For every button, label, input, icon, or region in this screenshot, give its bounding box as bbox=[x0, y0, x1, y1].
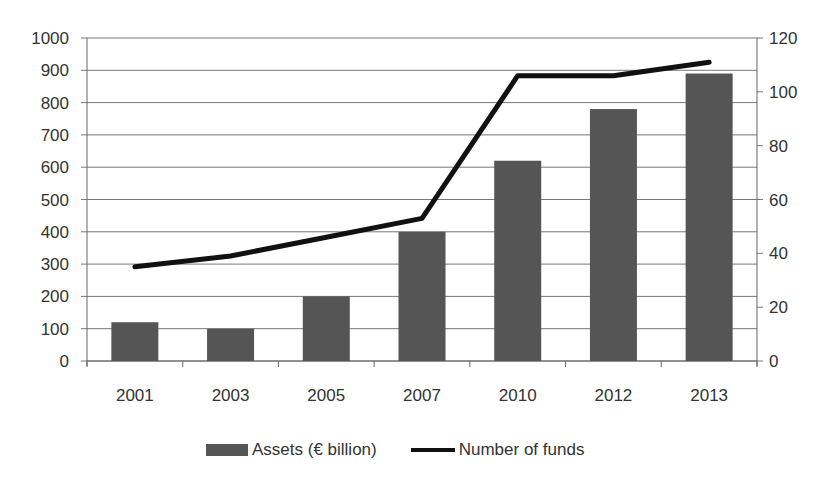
bar-2010 bbox=[494, 161, 541, 361]
bar-2013 bbox=[686, 74, 733, 361]
legend-label-assets: Assets (€ billion) bbox=[252, 440, 377, 460]
left-axis-tick: 300 bbox=[41, 255, 69, 274]
x-axis-label: 2012 bbox=[595, 386, 633, 405]
right-axis-tick: 60 bbox=[769, 191, 788, 210]
bar-2003 bbox=[207, 329, 254, 361]
x-axis-label: 2001 bbox=[116, 386, 154, 405]
left-axis-tick: 800 bbox=[41, 94, 69, 113]
legend-item-assets: Assets (€ billion) bbox=[206, 440, 377, 460]
line-swatch-icon bbox=[411, 448, 455, 452]
right-axis-tick: 100 bbox=[769, 83, 797, 102]
left-axis-tick: 700 bbox=[41, 126, 69, 145]
right-axis-tick: 0 bbox=[769, 352, 778, 371]
legend-label-funds: Number of funds bbox=[459, 440, 585, 460]
combo-chart: 0100200300400500600700800900100002040608… bbox=[0, 0, 837, 430]
right-axis-tick: 40 bbox=[769, 244, 788, 263]
bar-2012 bbox=[590, 109, 637, 361]
x-axis-label: 2013 bbox=[690, 386, 728, 405]
bar-swatch-icon bbox=[206, 444, 248, 456]
x-axis-label: 2003 bbox=[212, 386, 250, 405]
left-axis-tick: 600 bbox=[41, 158, 69, 177]
left-axis-tick: 0 bbox=[60, 352, 69, 371]
legend: Assets (€ billion) Number of funds bbox=[206, 440, 618, 460]
right-axis-tick: 120 bbox=[769, 29, 797, 48]
left-axis-tick: 1000 bbox=[31, 29, 69, 48]
left-axis-tick: 100 bbox=[41, 320, 69, 339]
left-axis-tick: 900 bbox=[41, 61, 69, 80]
x-axis-label: 2005 bbox=[307, 386, 345, 405]
left-axis-tick: 200 bbox=[41, 287, 69, 306]
x-axis-label: 2007 bbox=[403, 386, 441, 405]
x-axis-label: 2010 bbox=[499, 386, 537, 405]
bar-2005 bbox=[303, 296, 350, 361]
legend-item-funds: Number of funds bbox=[411, 440, 585, 460]
left-axis-tick: 400 bbox=[41, 223, 69, 242]
left-axis-tick: 500 bbox=[41, 191, 69, 210]
right-axis-tick: 80 bbox=[769, 137, 788, 156]
bar-2001 bbox=[111, 322, 158, 361]
right-axis-tick: 20 bbox=[769, 298, 788, 317]
bar-2007 bbox=[399, 232, 446, 361]
